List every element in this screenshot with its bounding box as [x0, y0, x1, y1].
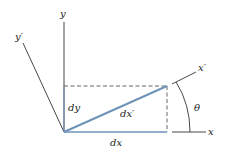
theta-arc — [176, 82, 190, 132]
coordinate-rotation-diagram: y y′ x x′ dy dx dx′ θ — [0, 0, 228, 157]
y-prime-label: y′ — [14, 31, 24, 42]
y-label: y — [59, 8, 66, 19]
dx-label: dx — [110, 137, 122, 148]
theta-label: θ — [194, 102, 200, 113]
x-prime-axis — [172, 72, 196, 84]
dy-label: dy — [68, 102, 80, 113]
y-prime-axis — [23, 43, 64, 132]
dx-prime-label: dx′ — [120, 108, 135, 119]
x-prime-label: x′ — [198, 62, 207, 73]
x-label: x — [208, 126, 214, 137]
